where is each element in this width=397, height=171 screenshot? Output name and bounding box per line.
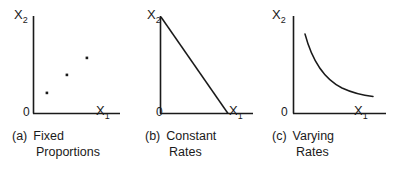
origin-label-c: 0: [281, 106, 288, 118]
y-axis-label-a: X2: [14, 8, 28, 25]
caption-b-text-1: Constant: [166, 129, 216, 143]
x-axis-label-b: X1: [229, 104, 243, 121]
caption-a-text-1: Fixed: [33, 129, 64, 143]
panel-fixed-proportions: X2 0 X1 (a)Fixed Proportions: [0, 0, 132, 171]
caption-a-line-1: (a)Fixed: [0, 128, 132, 144]
constant-rate-line: [161, 17, 228, 114]
panel-varying-rates: X2 0 X1 (c)Varying Rates: [266, 0, 397, 171]
caption-b: (b)Constant Rates: [133, 128, 265, 160]
caption-a-tag: (a): [12, 129, 27, 143]
data-point: [46, 92, 49, 95]
caption-c-text-1: Varying: [293, 129, 334, 143]
data-point: [86, 57, 89, 60]
figure-three-production-diagrams: X2 0 X1 (a)Fixed Proportions X2 0 X1 (b)…: [0, 0, 397, 171]
caption-a: (a)Fixed Proportions: [0, 128, 132, 160]
caption-b-line-2: Rates: [133, 144, 265, 160]
origin-label-b: 0: [156, 106, 163, 118]
caption-b-line-1: (b)Constant: [133, 128, 265, 144]
varying-rate-curve: [305, 34, 373, 97]
caption-c-line-2: Rates: [266, 144, 397, 160]
caption-b-tag: (b): [145, 129, 160, 143]
caption-c-line-1: (c)Varying: [266, 128, 397, 144]
y-axis-label-c: X2: [272, 8, 286, 25]
data-point: [66, 74, 69, 77]
caption-c: (c)Varying Rates: [266, 128, 397, 160]
y-axis-label-b: X2: [147, 8, 161, 25]
caption-a-line-2: Proportions: [0, 144, 132, 160]
caption-c-tag: (c): [272, 129, 287, 143]
panel-constant-rates: X2 0 X1 (b)Constant Rates: [133, 0, 265, 171]
x-axis-label-a: X1: [96, 104, 110, 121]
origin-label-a: 0: [23, 106, 30, 118]
x-axis-label-c: X1: [354, 104, 368, 121]
